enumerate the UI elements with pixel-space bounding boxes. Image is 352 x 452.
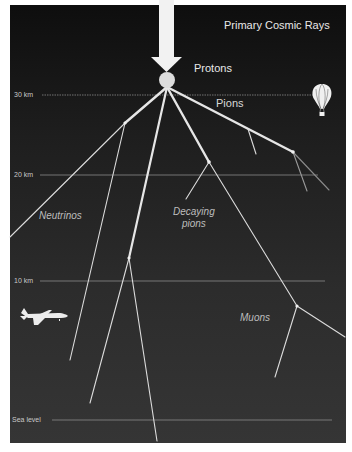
altitude-label-30km: 30 km [14, 91, 33, 98]
altitude-lines [40, 95, 332, 420]
altitude-label-20km: 20 km [14, 171, 33, 178]
decaying-pions-label: Decaying pions [173, 206, 215, 230]
down-arrow-icon [151, 0, 182, 72]
airplane-icon [20, 308, 68, 325]
pion-tracks [125, 87, 293, 258]
decaying-pions-line1: Decaying [173, 206, 215, 218]
pions-label: Pions [216, 97, 244, 109]
neutrinos-label: Neutrinos [39, 210, 82, 221]
secondary-tracks [10, 123, 345, 441]
proton-circle-icon [159, 72, 175, 88]
altitude-label-sea-level: Sea level [12, 416, 41, 423]
hot-air-balloon-icon [313, 84, 332, 116]
title: Primary Cosmic Rays [224, 19, 330, 31]
altitude-label-10km: 10 km [14, 277, 33, 284]
protons-label: Protons [194, 62, 232, 74]
decaying-pions-line2: pions [173, 218, 215, 230]
muons-label: Muons [240, 312, 270, 323]
